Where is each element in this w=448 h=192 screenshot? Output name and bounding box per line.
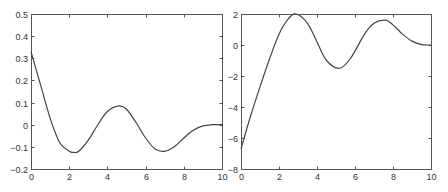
- x-tick-label: 8: [391, 172, 396, 182]
- y-tick-label: 0.4: [15, 32, 28, 42]
- x-tick-label: 2: [277, 172, 282, 182]
- x-tick-label: 6: [144, 172, 149, 182]
- x-tick-label: 4: [315, 172, 320, 182]
- axes-frame: [32, 15, 223, 170]
- y-tick-label: −0.2: [10, 165, 28, 175]
- x-tick-label: 0: [239, 172, 244, 182]
- x-tick-label: 8: [182, 172, 187, 182]
- y-tick-label: 0.2: [15, 76, 28, 86]
- y-tick-label: −4: [228, 103, 238, 113]
- y-tick-label: −2: [228, 72, 238, 82]
- y-tick-label: 2: [233, 10, 238, 20]
- x-tick-label: 0: [29, 172, 34, 182]
- y-tick-label: 0.1: [15, 99, 28, 109]
- axes-frame: [242, 15, 432, 170]
- data-line: [241, 14, 431, 149]
- y-tick-label: 0: [233, 41, 238, 51]
- figure: 0246810−0.2−0.100.10.20.30.40.5 0246810−…: [0, 0, 448, 192]
- y-tick-label: −8: [228, 165, 238, 175]
- data-line: [31, 52, 222, 153]
- x-tick-label: 2: [67, 172, 72, 182]
- y-tick-label: −6: [228, 134, 238, 144]
- x-tick-label: 10: [217, 172, 227, 182]
- x-tick-label: 6: [353, 172, 358, 182]
- left-plot: 0246810−0.2−0.100.10.20.30.40.5: [10, 10, 227, 183]
- x-tick-label: 10: [426, 172, 436, 182]
- y-tick-label: 0: [23, 121, 28, 131]
- y-tick-label: −0.1: [10, 143, 28, 153]
- y-tick-label: 0.5: [15, 10, 28, 20]
- y-tick-label: 0.3: [15, 54, 28, 64]
- x-tick-label: 4: [105, 172, 110, 182]
- right-plot: 0246810−8−6−4−202: [228, 10, 437, 183]
